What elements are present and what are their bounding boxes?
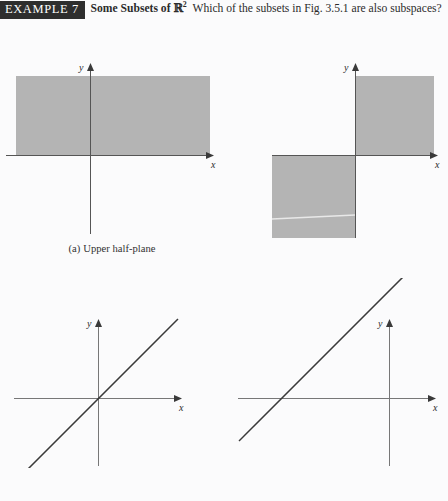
x-axis-arrow-icon [428, 395, 436, 402]
shaded-region-quadrant-i [355, 76, 434, 155]
example-title-prefix: Some Subsets of [91, 2, 174, 15]
x-axis-arrow-icon [174, 395, 182, 402]
plot-upper-half-plane: x y [0, 56, 224, 246]
example-header-line: EXAMPLE 7 Some Subsets of ℝ2 Which of th… [0, 1, 446, 19]
figure-panel-c: x y (c)Line y = x through the origin [0, 278, 224, 500]
example-header-text: EXAMPLE 7 Some Subsets of ℝ2 Which of th… [0, 1, 446, 19]
figure-grid: x y (a)Upper half-plane x y [0, 56, 448, 501]
figure-caption-a-label: (a) [69, 243, 81, 254]
y-axis-label: y [343, 62, 349, 73]
y-axis-label: y [86, 318, 92, 329]
example-body-text: Which of the subsets in Fig. 3.5.1 are a… [192, 2, 441, 15]
plot-quadrants-i-and-iii: x y [224, 56, 448, 246]
line-y-equals-x [16, 319, 178, 468]
y-axis-arrow-icon [87, 63, 94, 71]
y-axis-arrow-icon [352, 63, 359, 71]
shaded-region-quadrant-iii [272, 155, 355, 238]
x-axis-label: x [434, 159, 440, 170]
figure-caption-a-text: Upper half-plane [83, 243, 155, 254]
plot-line-y-equals-x-plus-1: x y [224, 278, 448, 468]
x-axis-label: x [210, 159, 216, 170]
y-axis-label: y [377, 318, 383, 329]
y-axis-label: y [78, 62, 84, 73]
example-badge: EXAMPLE 7 [0, 1, 85, 19]
x-axis-label: x [178, 402, 184, 413]
blackboard-r-symbol: ℝ [173, 1, 182, 15]
example-title: Some Subsets of ℝ2 [91, 2, 187, 15]
example-title-exponent: 2 [183, 0, 187, 9]
line-y-equals-x-plus-1 [239, 278, 407, 441]
figure-caption-a: (a)Upper half-plane [0, 242, 224, 255]
figure-panel-d: x y (d)y = x + 1 not through the origin [224, 278, 448, 500]
shaded-region-upper-half-plane [16, 76, 210, 155]
figure-panel-a: x y (a)Upper half-plane [0, 56, 224, 278]
plot-line-y-equals-x: x y [0, 278, 224, 468]
figure-panel-b: x y (b)Quadrants I and III [224, 56, 448, 278]
y-axis-arrow-icon [95, 319, 102, 327]
x-axis-label: x [432, 402, 438, 413]
y-axis-arrow-icon [386, 319, 393, 327]
